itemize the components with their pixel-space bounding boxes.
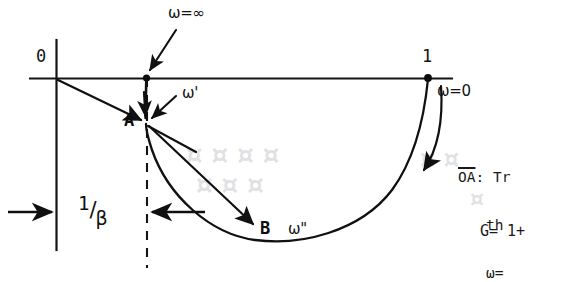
note-line-3: ω= [458,265,582,281]
point-label-a: A [124,112,134,129]
leader-point-a-tick [144,92,145,116]
note-overline-oa: OA [458,169,475,185]
dimension-label-one-over-beta: 1/β [78,196,109,220]
dimension-numerator: 1 [78,192,89,214]
annotation-omega-zero: ω=0 [437,84,471,99]
leader-omega-prime [152,96,176,118]
nyquist-locus-curve [146,79,428,241]
annotation-omega-double-prime: ω" [288,222,307,237]
annotation-omega-prime: ω' [182,86,198,101]
axis-label-origin: 0 [36,48,46,65]
note-gain-expression: G= 1+ [458,222,525,240]
annotation-omega-infinity: ω=∞ [168,6,205,21]
note-line-1-text: : Tr [475,169,510,185]
note-line-1: OA: Tr [458,169,582,185]
dimension-denominator: β [96,207,108,229]
note-column: OA: Tr th ω= [458,137,582,282]
leader-omega-infinity [150,30,176,70]
axis-label-unity: 1 [422,48,432,65]
point-label-b: B [260,220,270,237]
